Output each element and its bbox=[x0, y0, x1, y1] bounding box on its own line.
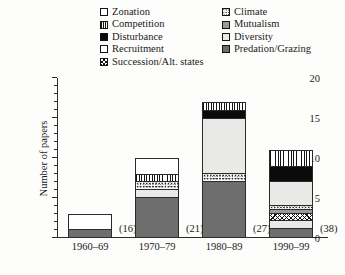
legend-item-predation-grazing[interactable]: Predation/Grazing bbox=[222, 43, 340, 55]
bar-segment-light-gray bbox=[136, 190, 178, 198]
bar-segment-speckled bbox=[136, 182, 178, 190]
bar-198089[interactable] bbox=[202, 102, 246, 238]
bar-segment-speckled bbox=[203, 174, 245, 182]
y-axis-minor-tick bbox=[54, 221, 57, 222]
x-axis-tick-label: 1970–79 bbox=[122, 241, 192, 252]
legend-swatch-black-icon bbox=[100, 33, 108, 41]
bar-199099[interactable] bbox=[269, 150, 313, 238]
y-axis-tick-label: 15 bbox=[310, 113, 321, 124]
bar-196069[interactable] bbox=[68, 214, 112, 238]
legend-item-climate[interactable]: Climate bbox=[222, 6, 340, 18]
legend-swatch-mid-gray-icon bbox=[222, 21, 230, 29]
legend-item-zonation[interactable]: Zonation bbox=[100, 6, 222, 18]
bar-segment-vertical-stripes bbox=[203, 103, 245, 111]
y-axis-minor-tick bbox=[54, 85, 57, 86]
legend-item-recruitment[interactable]: Recruitment bbox=[100, 43, 222, 55]
bar-segment-dark-gray bbox=[270, 229, 312, 237]
y-axis-major-tick bbox=[52, 197, 57, 198]
y-axis-minor-tick bbox=[54, 165, 57, 166]
y-axis-minor-tick bbox=[54, 93, 57, 94]
legend-item-label: Predation/Grazing bbox=[234, 43, 311, 55]
legend-swatch-white-icon bbox=[100, 45, 108, 53]
bar-segment-dark-gray bbox=[136, 198, 178, 237]
bar-count-label: (38) bbox=[320, 223, 338, 234]
plot-area: 051015201960–69(16)1970–79(21)1980–89(27… bbox=[57, 78, 328, 238]
legend-item-label: Recruitment bbox=[112, 43, 164, 55]
legend-swatch-crosshatch-icon bbox=[100, 58, 108, 66]
y-axis-minor-tick bbox=[54, 213, 57, 214]
legend-swatch-dark-gray-icon bbox=[222, 45, 230, 53]
y-axis-title-text: Number of papers bbox=[38, 120, 49, 196]
legend-item-label: Mutualism bbox=[234, 18, 280, 30]
legend-item-label: Disturbance bbox=[112, 31, 163, 43]
y-axis-tick-label: 20 bbox=[310, 73, 321, 84]
y-axis-minor-tick bbox=[54, 125, 57, 126]
x-axis-tick-label: 1980–89 bbox=[189, 241, 259, 252]
y-axis-minor-tick bbox=[54, 141, 57, 142]
y-axis-minor-tick bbox=[54, 189, 57, 190]
legend-item-label: Succession/Alt. states bbox=[112, 56, 204, 68]
y-axis-minor-tick bbox=[54, 133, 57, 134]
bar-segment-white bbox=[136, 159, 178, 175]
legend-column-left: ZonationCompetitionDisturbanceRecruitmen… bbox=[100, 6, 222, 68]
legend-item-label: Diversity bbox=[234, 31, 273, 43]
bar-segment-vertical-stripes bbox=[270, 151, 312, 167]
legend-item-label: Climate bbox=[234, 6, 267, 18]
y-axis-major-tick bbox=[52, 117, 57, 118]
y-axis-major-tick bbox=[52, 157, 57, 158]
bar-segment-black bbox=[203, 111, 245, 119]
y-axis-major-tick bbox=[52, 77, 57, 78]
bar-segment-light-gray bbox=[270, 182, 312, 205]
legend-swatch-white-icon bbox=[100, 8, 108, 16]
y-axis-minor-tick bbox=[54, 181, 57, 182]
legend-swatch-light-gray-icon bbox=[222, 33, 230, 41]
bar-segment-white bbox=[69, 215, 111, 230]
legend-item-disturbance[interactable]: Disturbance bbox=[100, 31, 222, 43]
x-axis-tick-label: 1960–69 bbox=[55, 241, 125, 252]
y-axis-minor-tick bbox=[54, 205, 57, 206]
legend-swatch-vertical-stripes-icon bbox=[100, 21, 108, 29]
bar-segment-vertical-stripes bbox=[136, 175, 178, 183]
legend-item-diversity[interactable]: Diversity bbox=[222, 31, 340, 43]
bar-segment-crosshatch bbox=[270, 214, 312, 222]
legend-item-label: Competition bbox=[112, 18, 165, 30]
legend-item-label: Zonation bbox=[112, 6, 150, 18]
y-axis-tick-label: 5 bbox=[315, 193, 320, 204]
bar-segment-dark-gray bbox=[69, 230, 111, 237]
legend-column-right: ClimateMutualismDiversityPredation/Grazi… bbox=[222, 6, 340, 68]
bar-segment-black bbox=[270, 167, 312, 183]
y-axis-minor-tick bbox=[54, 173, 57, 174]
stacked-bar-chart: ZonationCompetitionDisturbanceRecruitmen… bbox=[0, 0, 345, 275]
y-axis-minor-tick bbox=[54, 101, 57, 102]
bar-segment-dark-gray bbox=[203, 182, 245, 237]
y-axis-minor-tick bbox=[54, 229, 57, 230]
legend-item-mutualism[interactable]: Mutualism bbox=[222, 18, 340, 30]
legend-item-competition[interactable]: Competition bbox=[100, 18, 222, 30]
y-axis-line bbox=[57, 78, 58, 238]
chart-legend: ZonationCompetitionDisturbanceRecruitmen… bbox=[100, 6, 340, 68]
y-axis-minor-tick bbox=[54, 109, 57, 110]
bar-segment-light-gray bbox=[203, 119, 245, 174]
legend-swatch-speckled-icon bbox=[222, 8, 230, 16]
y-axis-minor-tick bbox=[54, 149, 57, 150]
bar-count-label: (16) bbox=[119, 223, 137, 234]
bar-segment-light-gray bbox=[270, 221, 312, 229]
y-axis-major-tick bbox=[52, 237, 57, 238]
bar-count-label: (21) bbox=[186, 223, 204, 234]
legend-item-succession-alt-states[interactable]: Succession/Alt. states bbox=[100, 56, 222, 68]
x-axis-tick-label: 1990–99 bbox=[256, 241, 326, 252]
bar-count-label: (27) bbox=[253, 223, 271, 234]
bar-197079[interactable] bbox=[135, 158, 179, 238]
